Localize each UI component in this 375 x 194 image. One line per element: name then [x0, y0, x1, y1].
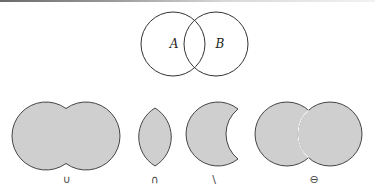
set-b-label: B: [215, 37, 225, 51]
base-venn: A B: [141, 12, 248, 76]
union-symbol: ∪: [63, 173, 71, 186]
intersection-symbol: ∩: [151, 173, 159, 186]
set-operations-diagram: A B ∪ ∩ \ ⊖: [0, 0, 375, 194]
union-diagram: ∪: [12, 102, 120, 186]
symmetric-difference-symbol: ⊖: [309, 173, 318, 186]
intersection-diagram: ∩: [139, 108, 172, 186]
difference-diagram: \: [186, 102, 238, 186]
difference-shape: [186, 102, 238, 166]
difference-symbol: \: [212, 173, 216, 186]
intersection-shape: [139, 108, 172, 166]
set-a-label: A: [169, 37, 179, 51]
union-shape: [12, 102, 120, 170]
symmetric-difference-diagram: ⊖: [255, 102, 362, 186]
